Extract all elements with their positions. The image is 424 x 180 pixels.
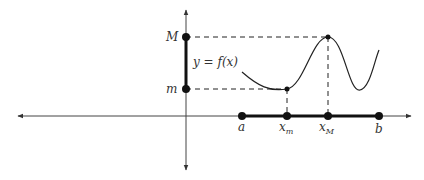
label-xM: xM [319, 120, 335, 136]
label-m: m [166, 82, 177, 96]
label-b: b [375, 122, 383, 136]
label-function: y = f(x) [192, 55, 238, 69]
point-xm [283, 112, 291, 120]
point-M [182, 33, 190, 41]
extreme-value-diagram: M m y = f(x) a xm xM b [0, 0, 424, 180]
dashed-guides [186, 37, 328, 116]
label-M: M [165, 30, 179, 44]
point-m [182, 85, 190, 93]
point-xM [324, 112, 332, 120]
point-max-curve [326, 35, 331, 40]
points [182, 33, 383, 120]
point-min-curve [285, 87, 290, 92]
function-curve [242, 37, 379, 90]
label-a: a [238, 120, 245, 134]
point-b [375, 112, 383, 120]
label-xm: xm [279, 120, 294, 136]
point-a [238, 112, 246, 120]
